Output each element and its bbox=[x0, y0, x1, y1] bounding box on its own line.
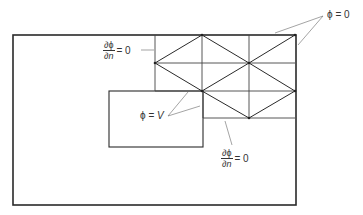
partial-derivative-fraction: ∂ϕ ∂n bbox=[221, 148, 233, 169]
mesh-nodes bbox=[154, 34, 297, 120]
label-phi-zero: ϕ = 0 bbox=[327, 10, 350, 20]
partial-derivative-fraction: ∂ϕ ∂n bbox=[103, 40, 115, 61]
mesh-diagram bbox=[0, 0, 363, 215]
mesh-diagonals bbox=[155, 35, 295, 118]
label-neumann-top: ∂ϕ ∂n = 0 bbox=[103, 40, 131, 61]
label-neumann-bottom: ∂ϕ ∂n = 0 bbox=[221, 148, 249, 169]
label-phi-v: ϕ = V bbox=[140, 111, 164, 121]
